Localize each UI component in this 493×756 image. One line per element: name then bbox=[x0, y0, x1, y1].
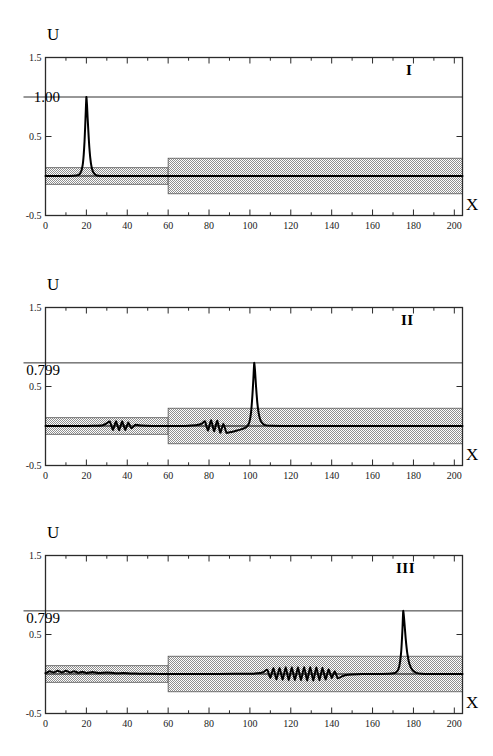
panel-III-svg: 020406080100120140160180200-0.50.51.5 bbox=[0, 498, 493, 750]
x-tick-label: 120 bbox=[283, 220, 298, 231]
y-axis-title: U bbox=[47, 524, 59, 541]
x-axis-title: X bbox=[466, 196, 478, 213]
x-tick-label: 60 bbox=[163, 470, 173, 481]
x-tick-label: 0 bbox=[43, 470, 48, 481]
x-tick-label: 140 bbox=[324, 470, 339, 481]
x-tick-label: 80 bbox=[204, 718, 214, 729]
y-tick-label: 1.5 bbox=[29, 302, 42, 313]
x-tick-label: 200 bbox=[447, 470, 462, 481]
plot-panel-III: 020406080100120140160180200-0.50.51.5 U … bbox=[0, 498, 493, 750]
x-tick-label: 20 bbox=[81, 470, 91, 481]
x-tick-label: 20 bbox=[81, 220, 91, 231]
x-tick-label: 180 bbox=[406, 718, 421, 729]
x-tick-label: 200 bbox=[447, 220, 462, 231]
y-tick-label: 0.5 bbox=[29, 131, 42, 142]
x-tick-label: 120 bbox=[283, 718, 298, 729]
x-tick-label: 100 bbox=[242, 470, 257, 481]
x-tick-label: 80 bbox=[204, 220, 214, 231]
x-tick-label: 160 bbox=[365, 470, 380, 481]
x-tick-label: 100 bbox=[242, 220, 257, 231]
y-tick-label: 1.5 bbox=[29, 550, 42, 561]
x-tick-label: 80 bbox=[204, 470, 214, 481]
x-tick-label: 0 bbox=[43, 718, 48, 729]
x-tick-label: 20 bbox=[81, 718, 91, 729]
plot-panel-II: 020406080100120140160180200-0.50.51.5 U … bbox=[0, 250, 493, 502]
x-tick-label: 0 bbox=[43, 220, 48, 231]
x-tick-label: 40 bbox=[122, 470, 132, 481]
x-tick-label: 40 bbox=[122, 718, 132, 729]
figure-root: 020406080100120140160180200-0.50.51.5 U … bbox=[0, 0, 493, 756]
x-axis-title: X bbox=[466, 446, 478, 463]
peak-value-label-I: 1.00 bbox=[2, 89, 60, 106]
x-tick-label: 40 bbox=[122, 220, 132, 231]
peak-value-label-III: 0.799 bbox=[0, 610, 60, 627]
panel-label-I: I bbox=[406, 62, 412, 79]
panel-I-svg: 020406080100120140160180200-0.50.51.5 bbox=[0, 0, 493, 252]
peak-value-label-II: 0.799 bbox=[0, 362, 60, 379]
y-axis-title: U bbox=[47, 26, 59, 43]
plot-panel-I: 020406080100120140160180200-0.50.51.5 U … bbox=[0, 0, 493, 252]
x-tick-label: 200 bbox=[447, 718, 462, 729]
x-tick-label: 160 bbox=[365, 718, 380, 729]
y-tick-label: -0.5 bbox=[26, 210, 42, 221]
x-tick-label: 60 bbox=[163, 220, 173, 231]
x-tick-label: 140 bbox=[324, 220, 339, 231]
x-tick-label: 100 bbox=[242, 718, 257, 729]
x-axis-title: X bbox=[466, 694, 478, 711]
panel-label-II: II bbox=[401, 312, 414, 329]
y-tick-label: 1.5 bbox=[29, 52, 42, 63]
y-axis-title: U bbox=[47, 276, 59, 293]
x-tick-label: 180 bbox=[406, 470, 421, 481]
x-tick-label: 120 bbox=[283, 470, 298, 481]
y-tick-label: 0.5 bbox=[29, 381, 42, 392]
y-tick-label: 0.5 bbox=[29, 629, 42, 640]
y-tick-label: -0.5 bbox=[26, 708, 42, 719]
panel-II-svg: 020406080100120140160180200-0.50.51.5 bbox=[0, 250, 493, 502]
panel-label-III: III bbox=[396, 560, 415, 577]
x-tick-label: 160 bbox=[365, 220, 380, 231]
x-tick-label: 140 bbox=[324, 718, 339, 729]
y-tick-label: -0.5 bbox=[26, 460, 42, 471]
x-tick-label: 60 bbox=[163, 718, 173, 729]
x-tick-label: 180 bbox=[406, 220, 421, 231]
